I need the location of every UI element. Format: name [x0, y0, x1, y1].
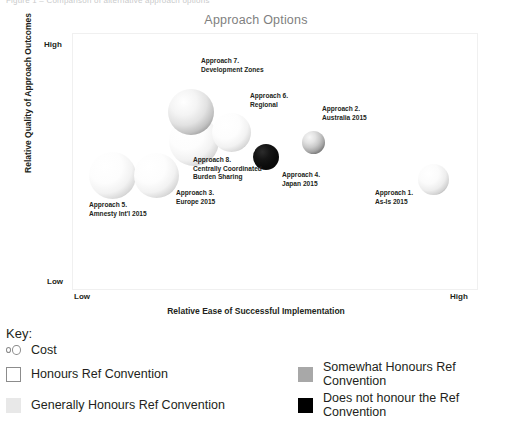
bubble-label-approach-2: Approach 2. Australia 2015 [322, 105, 367, 122]
key-item-honours: Honours Ref Convention [6, 360, 298, 388]
swatch-does-not-honour-icon [298, 398, 313, 413]
chart-title: Approach Options [0, 13, 512, 27]
key-label-does-not-honour: Does not honour the Ref Convention [323, 391, 508, 419]
bubble-approach-3[interactable] [134, 153, 179, 198]
bubble-approach-5[interactable] [89, 152, 136, 199]
cost-circles-icon [6, 345, 21, 355]
key-label-cost: Cost [31, 343, 57, 357]
bubble-approach-6[interactable] [212, 113, 251, 152]
key-item-generally-honours: Generally Honours Ref Convention [6, 391, 298, 419]
bubble-label-approach-4: Approach 4. Japan 2015 [282, 171, 320, 188]
y-axis-tick-high: High [44, 40, 62, 49]
key-label-somewhat-honours: Somewhat Honours Ref Convention [323, 360, 508, 388]
y-axis-label: Relative Quality of Approach Outcomes [23, 3, 33, 183]
key-label-honours: Honours Ref Convention [31, 367, 168, 381]
bubble-label-approach-1: Approach 1. As-Is 2015 [375, 189, 413, 206]
key-legend: Key: Cost Honours Ref Convention Somewha… [6, 326, 508, 419]
key-item-cost: Cost [6, 343, 298, 357]
bubble-label-approach-6: Approach 6. Regional [250, 92, 288, 109]
swatch-generally-honours-icon [6, 398, 21, 413]
key-item-does-not-honour: Does not honour the Ref Convention [298, 391, 508, 419]
x-axis-tick-low: Low [74, 292, 90, 301]
bubble-label-approach-7: Approach 7. Development Zones [201, 57, 264, 74]
bubble-approach-1[interactable] [418, 164, 449, 195]
x-axis-label: Relative Ease of Successful Implementati… [0, 306, 512, 316]
key-label-generally-honours: Generally Honours Ref Convention [31, 398, 225, 412]
bubble-label-approach-8: Approach 8. Centrally Coordinated Burden… [193, 156, 262, 182]
y-axis-tick-low: Low [47, 277, 63, 286]
bubble-label-approach-3: Approach 3. Europe 2015 [176, 189, 215, 206]
figure-caption-cutoff: Figure 1 – Comparison of alternative app… [6, 0, 210, 5]
bubble-approach-2[interactable] [302, 131, 325, 154]
plot-area: Approach 7. Development Zones Approach 6… [72, 33, 478, 290]
swatch-somewhat-honours-icon [298, 367, 313, 382]
bubble-label-approach-5: Approach 5. Amnesty Int'l 2015 [89, 201, 147, 218]
x-axis-tick-high: High [450, 292, 468, 301]
swatch-honours-icon [6, 367, 21, 382]
key-item-somewhat-honours: Somewhat Honours Ref Convention [298, 360, 508, 388]
bubble-approach-7[interactable] [168, 89, 214, 135]
key-title: Key: [6, 326, 508, 341]
